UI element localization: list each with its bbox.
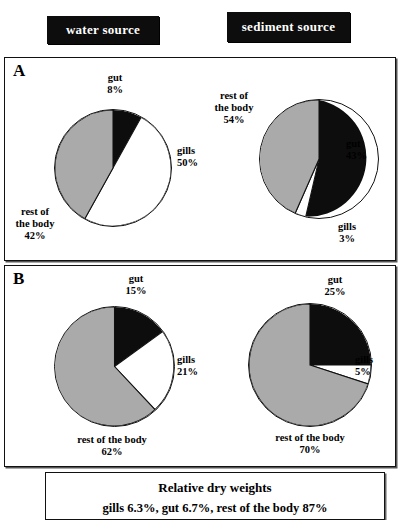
- pie-a-sediment-label-rest-of-the-body: rest of the body 54%: [201, 90, 267, 125]
- pie-a-sediment-label-gut: gut 43%: [346, 138, 394, 162]
- column-header-water-source: water source: [47, 16, 159, 44]
- pie-b-sediment-label-rest-of-the-body: rest of the body 70%: [233, 432, 387, 456]
- pie-a-water-svg: [55, 110, 171, 226]
- caption-title: Relative dry weights: [46, 480, 384, 496]
- column-header-sediment-source: sediment source: [227, 12, 350, 42]
- caption-box: Relative dry weights gills 6.3%, gut 6.7…: [45, 472, 385, 520]
- pie-chart-b-sediment-source: [248, 303, 372, 427]
- pie-b-water-label-gut: gut 15%: [109, 273, 163, 297]
- pie-a-water-label-rest-of-the-body: rest of the body 42%: [7, 206, 63, 241]
- pie-b-sediment-svg: [249, 304, 371, 426]
- pie-b-water-label-rest-of-the-body: rest of the body 62%: [37, 434, 187, 458]
- pie-b-water-svg: [55, 307, 174, 426]
- panel-a-letter: A: [13, 61, 25, 81]
- pie-chart-b-water-source: [54, 306, 175, 427]
- pie-chart-a-water-source: [54, 109, 172, 227]
- pie-b-sediment-label-gut: gut 25%: [311, 274, 359, 298]
- pie-a-sediment-label-gills: gills 3%: [323, 221, 371, 245]
- panel-b: B gut 15% gills 21% rest of the body 62%…: [4, 265, 396, 467]
- pie-a-water-label-gut: gut 8%: [85, 72, 145, 96]
- panel-b-letter: B: [13, 269, 24, 289]
- pie-b-sediment-label-gills: gills 5%: [355, 354, 397, 378]
- pie-b-water-label-gills: gills 21%: [177, 354, 231, 378]
- caption-subtitle: gills 6.3%, gut 6.7%, rest of the body 8…: [46, 501, 384, 516]
- pie-a-water-label-gills: gills 50%: [177, 145, 237, 169]
- panel-a: A gut 8% gills 50% rest of the body 42% …: [4, 57, 396, 261]
